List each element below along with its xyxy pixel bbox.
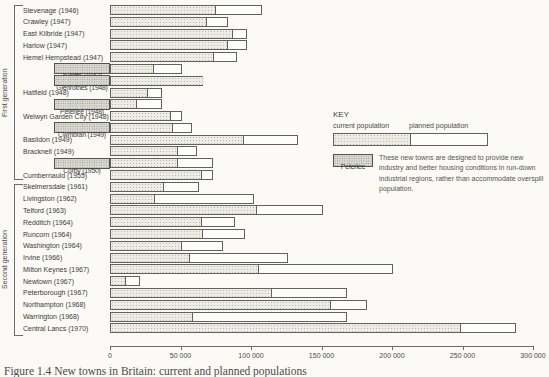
population-bar: [110, 217, 235, 227]
town-label: Telford (1963): [23, 205, 66, 216]
population-bar: [110, 64, 182, 74]
current-population-segment: [111, 195, 155, 203]
population-bar: [110, 300, 367, 310]
legend-planned-label: planned population: [409, 122, 468, 129]
x-axis-tick-label: 300 000: [520, 352, 545, 359]
current-population-segment: [111, 41, 228, 49]
town-label: Basildon (1949): [23, 134, 72, 145]
current-population-segment: [111, 218, 202, 226]
population-bar: [110, 288, 347, 298]
legend-hatched-sample-label: Peterlee: [341, 163, 365, 170]
current-population-segment: [111, 77, 204, 85]
current-population-segment: [111, 89, 148, 97]
town-label: Skelmersdale (1961): [23, 181, 88, 192]
town-label: Irvine (1966): [23, 252, 62, 263]
x-axis-tick: [322, 346, 323, 350]
x-axis-tick-label: 250 000: [450, 352, 475, 359]
population-bar: [110, 158, 213, 168]
town-label: Hemel Hempstead (1947): [23, 52, 103, 63]
current-population-segment: [111, 124, 173, 132]
current-population-segment: [111, 277, 126, 285]
town-label: Harlow (1947): [23, 40, 67, 51]
figure-caption: Figure 1.4 New towns in Britain: current…: [4, 365, 549, 377]
current-population-segment: [111, 65, 154, 73]
town-label-highlight-box: Aycliffe (1947): [54, 63, 110, 74]
population-bar: [110, 241, 223, 251]
current-population-segment: [111, 242, 182, 250]
population-bar: [110, 312, 347, 322]
current-population-segment: [111, 230, 203, 238]
current-population-segment: [111, 30, 233, 38]
x-axis-tick-label: 0: [108, 352, 112, 359]
town-label: Welwyn Garden City (1948): [23, 111, 109, 122]
current-population-segment: [111, 6, 216, 14]
town-label-highlight-box: Peterlee (1948): [54, 99, 110, 110]
legend-title: KEY: [333, 110, 349, 119]
current-population-segment: [111, 254, 190, 262]
current-population-segment: [111, 18, 207, 26]
group-label-first-generation: First generation: [1, 5, 13, 180]
population-bar: [110, 111, 182, 121]
current-population-segment: [111, 147, 178, 155]
legend-current-segment: [334, 134, 411, 145]
population-bar: [110, 76, 203, 86]
legend-current-label: current population: [333, 122, 389, 129]
legend-sample-bar: [333, 133, 488, 146]
x-axis-tick: [463, 346, 464, 350]
current-population-segment: [111, 112, 171, 120]
current-population-segment: [111, 183, 164, 191]
population-bar: [110, 88, 162, 98]
population-bar: [110, 123, 192, 133]
current-population-segment: [111, 301, 331, 309]
population-bar: [110, 229, 245, 239]
legend-note: These new towns are designed to provide …: [379, 153, 547, 194]
current-population-segment: [111, 171, 202, 179]
x-axis-tick: [181, 346, 182, 350]
population-bar: [110, 5, 262, 15]
population-bar: [110, 99, 162, 109]
town-label: Newtown (1967): [23, 276, 74, 287]
town-label: Stevenage (1946): [23, 5, 79, 16]
current-population-segment: [111, 136, 244, 144]
town-label: Warrington (1968): [23, 311, 79, 322]
group-label-second-generation: Second generation: [1, 184, 13, 336]
population-bar: [110, 323, 516, 333]
town-label: Livingston (1962): [23, 193, 77, 204]
population-bar: [110, 194, 254, 204]
town-label-highlight-box: Cwmbran (1949): [54, 122, 110, 133]
town-label: Bracknell (1949): [23, 146, 74, 157]
town-label: Milton Keynes (1967): [23, 264, 89, 275]
town-label-highlight-box: Corby (1950): [54, 158, 110, 169]
population-bar: [110, 52, 237, 62]
current-population-segment: [111, 53, 214, 61]
current-population-segment: [111, 159, 178, 167]
x-axis-tick: [533, 346, 534, 350]
legend-hatched-sample: Peterlee: [333, 154, 373, 167]
first-generation-bracket: [14, 5, 23, 180]
x-axis-tick-label: 100 000: [238, 352, 263, 359]
town-label: Cumbernauld (1955): [23, 170, 87, 181]
town-label: Hatfield (1948): [23, 87, 69, 98]
population-bar: [110, 264, 393, 274]
population-bar: [110, 276, 140, 286]
population-bar: [110, 205, 323, 215]
population-bar: [110, 146, 197, 156]
population-bar: [110, 170, 213, 180]
current-population-segment: [111, 206, 257, 214]
x-axis-tick: [392, 346, 393, 350]
population-bar: [110, 17, 228, 27]
population-bar: [110, 182, 199, 192]
current-population-segment: [111, 289, 272, 297]
town-label: Washington (1964): [23, 240, 82, 251]
current-population-segment: [111, 313, 193, 321]
second-generation-bracket: [14, 184, 23, 336]
x-axis-tick: [110, 346, 111, 350]
x-axis-tick-label: 50 000: [170, 352, 191, 359]
town-label: Central Lancs (1970): [23, 323, 88, 334]
x-axis-tick: [251, 346, 252, 350]
population-bar: [110, 29, 247, 39]
population-bar: [110, 135, 298, 145]
town-label: Northampton (1968): [23, 299, 86, 310]
current-population-segment: [111, 100, 137, 108]
